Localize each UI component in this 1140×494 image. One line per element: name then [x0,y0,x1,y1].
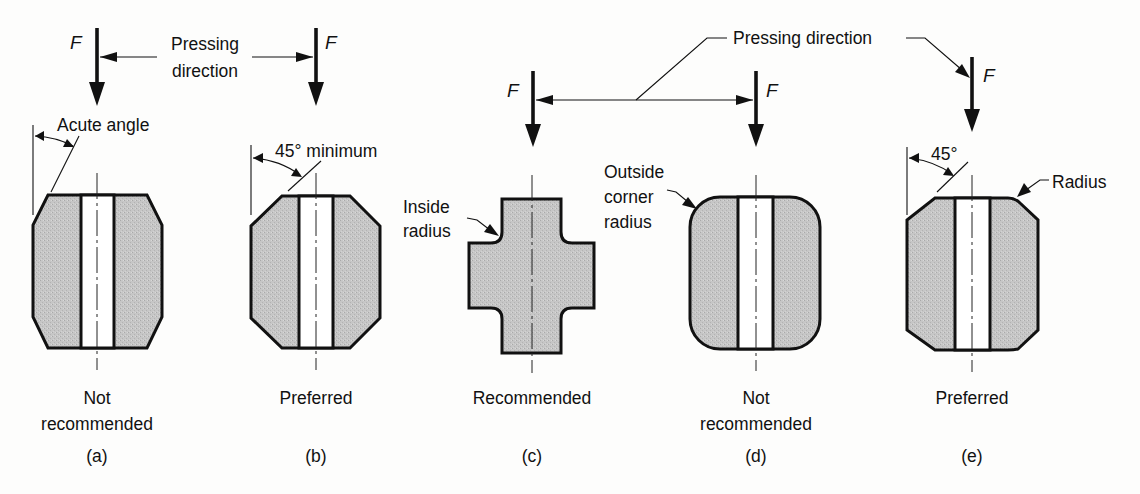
force-label: F [70,32,83,53]
radius-leader [1017,180,1049,197]
force-arrow-icon [748,71,764,147]
verdict-a-line2: recommended [41,414,153,434]
verdict-b: Preferred [280,388,353,408]
verdict-d-line2: recommended [700,414,812,434]
outside-corner-label-line3: radius [604,212,652,232]
letter-b: (b) [305,446,326,466]
verdict-a-line1: Not [83,388,110,408]
inside-radius-leader [467,218,499,236]
inside-radius-label-line1: Inside [403,197,450,217]
outside-corner-radius-leader [667,190,697,209]
letter-e: (e) [961,446,982,466]
verdict-c: Recommended [473,388,592,408]
pressing-label-line1: Pressing [171,34,239,54]
panel-b: F 45° minimum [251,28,380,370]
letter-a: (a) [86,446,107,466]
pressing-direction-label: Pressing direction [733,28,872,48]
outside-corner-label-line2: corner [604,187,654,207]
pressing-direction-callout-cde: Pressing direction [536,28,970,105]
panel-d: F Outside corner radius [604,71,820,371]
panel-e: F 45° Radius [907,57,1107,372]
pressing-label-line2: direction [172,61,238,81]
force-label: F [983,65,996,86]
force-arrow-icon [89,28,105,106]
letter-c: (c) [522,446,542,466]
inside-radius-label-line2: radius [403,221,451,241]
force-arrow-icon [525,71,541,147]
force-label: F [766,80,779,101]
min-45-label: 45° minimum [275,141,377,161]
panel-c: F Inside radius [403,71,594,373]
letter-d: (d) [745,446,766,466]
panel-captions: Not recommended (a) Preferred (b) Recomm… [41,388,1008,466]
pressing-direction-callout-ab: Pressing direction [100,34,313,81]
powder-pressing-design-figure: F Acute angle Pressing direction F [0,0,1140,494]
force-label: F [507,80,520,101]
acute-angle-label: Acute angle [57,115,149,135]
verdict-e: Preferred [936,388,1009,408]
panel-a: F Acute angle [33,28,162,370]
force-arrow-icon [964,57,980,132]
force-arrow-icon [308,28,324,106]
outside-corner-label-line1: Outside [604,162,664,182]
verdict-d-line1: Not [742,388,769,408]
force-label: F [325,32,338,53]
deg-45-label: 45° [931,144,957,164]
radius-label: Radius [1052,172,1107,192]
